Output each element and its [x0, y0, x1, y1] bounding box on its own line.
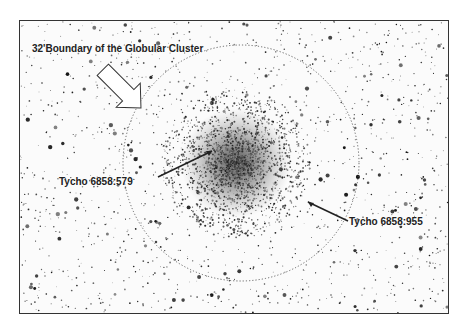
star-field [20, 21, 448, 313]
star-label-579: Tycho 6858:579 [59, 176, 133, 187]
star-field-image: 32'Boundary of the Globular Cluster Tych… [19, 20, 449, 314]
boundary-label: 32'Boundary of the Globular Cluster [32, 43, 203, 54]
star-label-955: Tycho 6858:955 [349, 216, 423, 227]
